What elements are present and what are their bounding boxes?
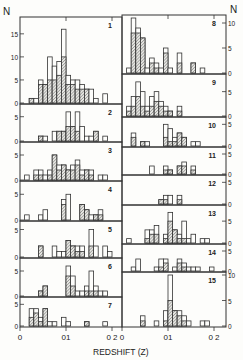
histogram-panel-12: 0512 <box>122 175 232 208</box>
y-tick-label: 0 <box>228 171 232 178</box>
bar-hatched <box>66 85 71 103</box>
bar-total <box>154 321 159 326</box>
bar-hatched <box>38 85 43 103</box>
bar-total <box>205 239 210 243</box>
bar-hatched <box>38 136 43 141</box>
bar-hatched <box>182 166 187 174</box>
bar-hatched <box>52 155 57 180</box>
bar-total <box>154 267 159 271</box>
panel-number: 3 <box>108 147 112 154</box>
y-tick-label: 0 <box>228 201 232 208</box>
bar-total <box>191 267 196 271</box>
bar-hatched <box>177 111 182 116</box>
y-tick-label: 5 <box>14 191 18 198</box>
panel-number: 13 <box>208 210 216 217</box>
bar-total <box>186 239 191 243</box>
bar-hatched <box>66 170 71 180</box>
bar-hatched <box>177 239 182 243</box>
bar-total <box>57 252 62 258</box>
bar-hatched <box>38 291 43 296</box>
panel-number: 7 <box>108 302 112 309</box>
bar-hatched <box>173 311 178 326</box>
bar-hatched <box>84 322 89 326</box>
histogram-panel-1: 0510151 <box>11 17 122 107</box>
bar-total <box>200 239 205 243</box>
bar-total <box>52 131 57 141</box>
bar-hatched <box>173 142 178 146</box>
histogram-panel-14: 0514 <box>122 244 232 275</box>
bar-total <box>196 267 201 271</box>
bar-hatched <box>71 286 76 296</box>
bar-total <box>43 210 48 220</box>
bar-hatched <box>140 38 145 73</box>
bar-hatched <box>168 221 173 243</box>
bar-total <box>25 175 30 180</box>
bar-hatched <box>48 80 53 103</box>
x-tick-label: 01 <box>62 333 71 342</box>
bar-total <box>131 267 136 271</box>
bar-hatched <box>84 89 89 103</box>
bar-hatched <box>131 106 136 116</box>
bar-hatched <box>61 57 66 103</box>
bar-total <box>43 175 48 180</box>
bar-hatched <box>191 63 196 73</box>
bar-hatched <box>43 286 48 296</box>
bar-total <box>80 126 85 141</box>
y-tick-label: 5 <box>14 227 18 234</box>
x-tick-label: 0 2 <box>106 333 118 342</box>
y-tick-label: 5 <box>14 152 18 159</box>
bar-total <box>107 252 112 258</box>
bar-hatched <box>80 175 85 180</box>
bar-hatched <box>71 246 76 257</box>
bar-total <box>209 267 214 271</box>
bar-hatched <box>34 313 39 326</box>
y-tick-label: 5 <box>228 121 232 128</box>
bar-hatched <box>71 126 76 141</box>
x-tick-label: 0 <box>18 333 23 342</box>
y-tick-label: 0 <box>228 70 232 77</box>
bar-total <box>94 246 99 257</box>
bar-total <box>127 239 132 243</box>
bar-total <box>98 175 103 180</box>
y-tick-label: 0 <box>14 100 18 107</box>
y-tick-label: 5 <box>14 268 18 275</box>
bar-total <box>94 98 99 103</box>
bar-hatched <box>131 137 136 146</box>
bar-hatched <box>84 291 89 296</box>
x-tick-label: 0 2 <box>208 333 220 342</box>
bar-hatched <box>136 97 141 117</box>
y-tick-label: 0 <box>228 143 232 150</box>
bar-total <box>103 322 108 326</box>
bar-hatched <box>163 111 168 116</box>
bar-hatched <box>136 33 141 73</box>
bar-hatched <box>163 53 168 73</box>
bar-total <box>103 291 108 296</box>
y-tick-label: 10 <box>228 272 236 279</box>
bar-total <box>80 291 85 296</box>
y-tick-label: 0 <box>14 138 18 145</box>
y-tick-label: 10 <box>228 20 236 27</box>
bar-hatched <box>145 111 150 116</box>
bar-hatched <box>66 276 71 296</box>
y-axis-label-right: N <box>230 4 237 15</box>
y-tick-label: 10 <box>11 54 19 61</box>
bar-hatched <box>94 131 99 141</box>
bar-hatched <box>154 101 159 116</box>
bar-total <box>43 136 48 141</box>
bar-hatched <box>163 137 168 146</box>
panel-number: 1 <box>108 22 112 29</box>
bar-total <box>186 321 191 326</box>
y-tick-label: 0 <box>14 254 18 261</box>
panel-number: 5 <box>108 226 112 233</box>
redshift-histogram-figure: N N 051015105205305405505605705108059051… <box>0 0 243 360</box>
bar-total <box>103 136 108 141</box>
bar-total <box>89 215 94 220</box>
bar-hatched <box>61 165 66 180</box>
bar-total <box>89 136 94 141</box>
y-axis-label-left: N <box>3 6 10 17</box>
bar-hatched <box>182 321 187 326</box>
bar-hatched <box>131 33 136 73</box>
histogram-panel-2: 052 <box>14 104 122 145</box>
bar-hatched <box>163 239 168 243</box>
bar-hatched <box>163 321 168 326</box>
